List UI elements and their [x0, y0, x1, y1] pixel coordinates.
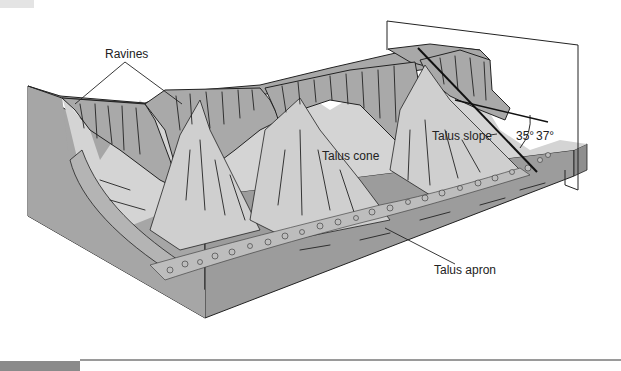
footer-rule — [80, 359, 621, 361]
footer-tab — [0, 361, 80, 371]
label-angle-37: 37° — [536, 129, 554, 143]
label-angle-35: 35° — [516, 129, 534, 143]
ravines-leader-1 — [75, 62, 125, 104]
label-ravines: Ravines — [105, 47, 148, 61]
label-talus-slope: Talus slope — [432, 129, 492, 143]
talus-block-diagram: Ravines Talus cone Talus slope 35° 37° T… — [0, 0, 621, 371]
label-talus-cone: Talus cone — [322, 149, 380, 163]
label-talus-apron: Talus apron — [434, 263, 496, 277]
